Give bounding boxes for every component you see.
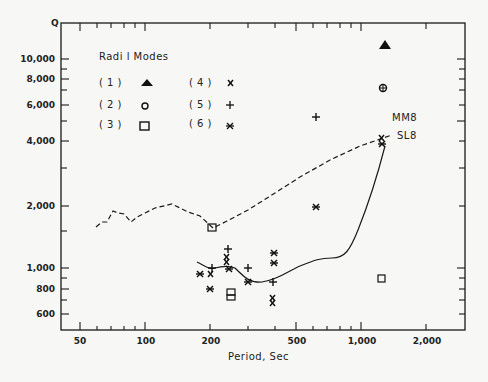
plus-point: [244, 264, 252, 272]
svg-text:( 4 ): ( 4 ): [189, 77, 212, 88]
y-axis-title: Q: [51, 18, 59, 28]
svg-text:6,000: 6,000: [27, 100, 55, 110]
x-axis-title: Period, Sec: [228, 351, 289, 362]
sl8-curve: [197, 146, 385, 282]
triangle-marker-icon: [141, 79, 153, 86]
square-point: [378, 275, 385, 282]
x-tick-labels: 50 100 200 500 1,000 2,000: [74, 336, 442, 346]
svg-text:1,000: 1,000: [27, 263, 55, 273]
svg-text:( 3 ): ( 3 ): [99, 119, 122, 130]
asterisk-point: [206, 286, 214, 292]
x-marker-icon: [228, 80, 233, 86]
x-ticks-bottom: [80, 322, 426, 330]
svg-text:( 2 ): ( 2 ): [99, 99, 122, 110]
svg-text:100: 100: [137, 336, 156, 346]
x-ticks-top: [80, 23, 426, 31]
plus-point: [208, 264, 216, 272]
x-point: [224, 259, 229, 265]
square-point: [227, 289, 235, 295]
svg-text:4,000: 4,000: [27, 136, 55, 146]
plus-point: [269, 278, 277, 286]
svg-text:2,000: 2,000: [27, 201, 55, 211]
svg-text:800: 800: [36, 284, 55, 294]
svg-text:8,000: 8,000: [27, 74, 55, 84]
square-marker-icon: [140, 122, 149, 130]
svg-text:1,000: 1,000: [348, 336, 376, 346]
asterisk-marker-icon: [226, 123, 234, 129]
y-ticks-left: [61, 59, 69, 314]
svg-text:( 6 ): ( 6 ): [189, 118, 212, 129]
asterisk-point: [312, 204, 320, 210]
x-point: [379, 135, 384, 141]
svg-text:200: 200: [202, 336, 221, 346]
y-ticks-right: [457, 59, 465, 314]
asterisk-point: [196, 271, 204, 277]
svg-text:50: 50: [74, 336, 87, 346]
legend: Radi l Modes ( 1 ) ( 2 ) ( 3 ) ( 4 ) ( 5…: [99, 51, 234, 130]
svg-text:500: 500: [288, 336, 307, 346]
svg-text:2,000: 2,000: [413, 336, 441, 346]
asterisk-point: [378, 141, 386, 147]
svg-text:( 5 ): ( 5 ): [189, 99, 212, 110]
square-point: [227, 295, 235, 300]
svg-text:Radi l Modes: Radi l Modes: [99, 51, 169, 62]
sl8-label: SL8: [397, 130, 417, 141]
svg-text:( 1 ): ( 1 ): [99, 77, 122, 88]
asterisk-point: [270, 250, 278, 256]
svg-text:10,000: 10,000: [20, 54, 55, 64]
plot-frame: [61, 23, 465, 330]
y-tick-labels: 10,000 8,000 6,000 4,000 2,000 1,000 800…: [20, 54, 55, 319]
plus-point: [224, 245, 232, 253]
circle-marker-icon: [142, 103, 148, 109]
asterisk-point: [270, 260, 278, 266]
plus-point: [312, 113, 320, 121]
x-point: [270, 300, 275, 306]
mm8-label: MM8: [392, 112, 417, 123]
plus-marker-icon: [226, 101, 234, 109]
mm8-curve: [96, 135, 392, 228]
chart: Q 10,000 8,000 6: [0, 0, 488, 382]
triangle-point: [379, 40, 391, 49]
svg-text:600: 600: [36, 309, 55, 319]
